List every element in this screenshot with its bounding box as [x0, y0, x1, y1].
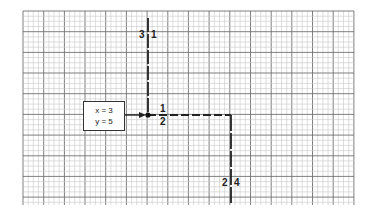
label-top-right: 1 [151, 30, 157, 40]
label-mid-above: 1 [160, 104, 166, 114]
path-diagram [0, 0, 370, 217]
label-bottom-right: 4 [234, 178, 240, 188]
label-top-left: 3 [139, 30, 145, 40]
input-coordinates-box: x = 3 y = 5 [83, 101, 125, 131]
x-value-label: x = 3 [95, 105, 113, 116]
origin-dot [145, 112, 150, 117]
y-value-label: y = 5 [95, 116, 113, 127]
label-mid-below: 2 [160, 117, 166, 127]
label-bottom-left: 2 [222, 178, 228, 188]
arrowhead-icon [139, 112, 146, 118]
